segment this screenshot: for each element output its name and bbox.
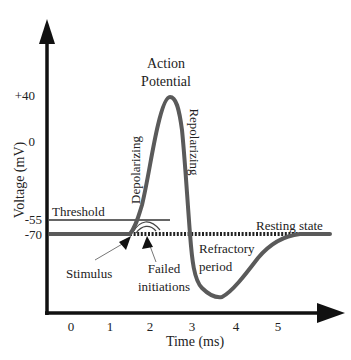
threshold-label: Threshold [52,204,105,219]
y-tick-0: 0 [29,134,36,149]
x-axis-label: Time (ms) [166,334,225,350]
x-tick-2: 2 [147,319,154,334]
failed-label-line1: Failed [148,261,181,276]
y-tick-minus70: -70 [25,227,42,242]
repolarizing-label: Repolarizing [187,108,202,176]
y-axis-label: Voltage (mV) [12,141,28,218]
depolarizing-label: Depolarizing [128,136,143,204]
title-line2: Potential [141,74,191,89]
y-tick-plus40: +40 [15,88,35,103]
x-axis-arrow-icon [317,303,345,323]
stimulus-label: Stimulus [66,266,112,281]
x-tick-1: 1 [107,319,114,334]
stimulus-arrow-line [95,243,124,260]
stimulus-arrow-icon [119,236,131,250]
failed-label-line2: initiations [138,279,190,294]
y-axis-arrow-icon [39,19,55,44]
refractory-label-line2: period [199,259,233,274]
y-tick-minus55: -55 [25,212,42,227]
failed-initiation-curve-2 [136,226,156,233]
x-tick-0: 0 [68,319,75,334]
x-tick-3: 3 [189,319,196,334]
x-tick-4: 4 [233,319,240,334]
resting-state-label: Resting state [256,218,323,233]
title-line1: Action [147,56,185,71]
x-tick-5: 5 [275,319,282,334]
refractory-label-line1: Refractory [199,241,255,256]
failed-arrow-line [150,246,156,262]
failed-arrow-icon [142,236,153,249]
action-potential-diagram: Action Potential +40 0 -55 -70 Voltage (… [0,0,351,360]
